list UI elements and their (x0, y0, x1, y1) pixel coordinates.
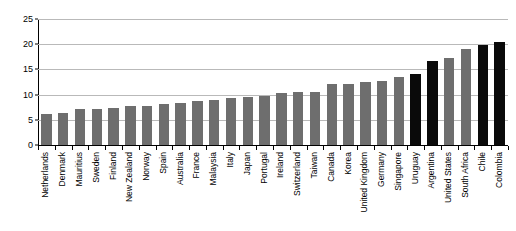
x-tick-mark (441, 146, 442, 150)
bar (410, 74, 420, 145)
bar (444, 58, 454, 145)
x-tick-mark (374, 146, 375, 150)
x-tick-mark (391, 146, 392, 150)
y-tick-label-5: 5 (28, 115, 33, 124)
x-axis-label: Norway (142, 152, 151, 181)
x-axis-labels: NetherlandsDenmarkMauritiusSwedenFinland… (38, 152, 508, 228)
x-axis-label: Korea (344, 152, 353, 175)
x-tick-mark (72, 146, 73, 150)
x-axis-label: Italy (226, 152, 235, 168)
x-tick-mark (139, 146, 140, 150)
x-tick-mark (189, 146, 190, 150)
bar (310, 92, 320, 145)
x-axis-label: Portugal (260, 152, 269, 184)
x-axis-label: New Zealand (125, 152, 134, 202)
y-tick-label-0: 0 (28, 141, 33, 150)
x-axis-label: Denmark (58, 152, 67, 186)
x-tick-mark (223, 146, 224, 150)
x-axis-label: Singapore (394, 152, 403, 191)
bar (259, 96, 269, 145)
x-tick-mark (55, 146, 56, 150)
bar (209, 100, 219, 145)
x-tick-mark (474, 146, 475, 150)
bar-chart: 0510152025 NetherlandsDenmarkMauritiusSw… (0, 0, 516, 231)
bar (58, 113, 68, 145)
x-tick-mark (307, 146, 308, 150)
x-tick-mark (424, 146, 425, 150)
x-axis-label: Chile (478, 152, 487, 171)
x-axis-label: Canada (327, 152, 336, 182)
bar (125, 106, 135, 145)
x-tick-mark (357, 146, 358, 150)
x-tick-mark (340, 146, 341, 150)
x-tick-mark (122, 146, 123, 150)
bar (293, 92, 303, 145)
x-tick-mark (206, 146, 207, 150)
bar (175, 103, 185, 145)
x-tick-mark (290, 146, 291, 150)
bar (377, 81, 387, 145)
bar (243, 97, 253, 145)
x-tick-mark (105, 146, 106, 150)
bar (276, 93, 286, 145)
x-axis-label: France (192, 152, 201, 178)
x-axis-label: Uruguay (411, 152, 420, 184)
x-tick-mark (156, 146, 157, 150)
x-axis-label: Argentina (427, 152, 436, 188)
x-tick-mark (172, 146, 173, 150)
x-tick-mark (491, 146, 492, 150)
x-axis-label: Malaysia (209, 152, 218, 186)
bar (427, 61, 437, 145)
x-axis-label: Taiwan (310, 152, 319, 178)
x-axis-label: South Africa (461, 152, 470, 198)
bar (159, 104, 169, 145)
x-axis-label: Colombia (495, 152, 504, 188)
y-tick-label-10: 10 (23, 90, 33, 99)
bar (343, 84, 353, 145)
y-tick-label-20: 20 (23, 40, 33, 49)
x-axis-label: United Kingdom (360, 152, 369, 212)
bar (192, 101, 202, 145)
x-tick-mark (273, 146, 274, 150)
bar (327, 84, 337, 145)
x-axis-label: Spain (159, 152, 168, 174)
x-tick-mark (38, 146, 39, 150)
x-tick-mark (458, 146, 459, 150)
x-axis-label: Sweden (92, 152, 101, 183)
x-tick-mark (239, 146, 240, 150)
bar (226, 98, 236, 145)
bar (142, 106, 152, 145)
x-axis-label: Germany (377, 152, 386, 187)
x-tick-mark (508, 146, 509, 150)
x-tick-mark (323, 146, 324, 150)
bar (41, 114, 51, 145)
bar (394, 77, 404, 145)
bar (360, 82, 370, 146)
bar (478, 45, 488, 145)
x-axis-label: Australia (176, 152, 185, 185)
x-axis-label: Switzerland (293, 152, 302, 196)
bar (92, 109, 102, 145)
x-tick-mark (88, 146, 89, 150)
x-axis-label: Japan (243, 152, 252, 175)
bar (494, 42, 504, 145)
y-tick-label-15: 15 (23, 65, 33, 74)
bar (461, 49, 471, 145)
x-axis-label: Finland (109, 152, 118, 180)
plot-area: 0510152025 (38, 19, 508, 145)
bar (108, 108, 118, 145)
y-tick-label-25: 25 (23, 15, 33, 24)
x-axis-ticks (38, 146, 508, 150)
bar (75, 109, 85, 145)
x-tick-mark (407, 146, 408, 150)
x-tick-mark (256, 146, 257, 150)
x-axis-label: Netherlands (41, 152, 50, 198)
x-axis-label: Mauritius (75, 152, 84, 186)
x-axis-label: United States (444, 152, 453, 203)
x-axis-label: Ireland (276, 152, 285, 178)
bars-group (38, 19, 508, 145)
